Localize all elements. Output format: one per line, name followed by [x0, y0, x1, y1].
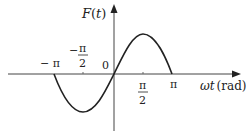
tick-label-half-pi-num: π: [139, 79, 146, 92]
tick-label-neg-half-pi-sign: −: [69, 44, 78, 57]
sine-diagram: F(t) − π − π 2 0 π 2 π ωt(rad): [0, 0, 246, 135]
tick-label-half-pi-den: 2: [139, 94, 146, 107]
x-axis-label: ωt(rad): [200, 79, 246, 93]
tick-label-neg-half-pi-num: π: [79, 42, 86, 55]
tick-label-neg-pi: − π: [40, 57, 60, 70]
x-axis-arrow-icon: [232, 71, 241, 78]
tick-label-neg-half-pi-den: 2: [79, 57, 86, 70]
y-axis-label: F(t): [81, 6, 106, 21]
y-axis-arrow-icon: [111, 4, 118, 13]
origin-label: 0: [102, 59, 109, 72]
tick-label-pi: π: [170, 78, 177, 91]
